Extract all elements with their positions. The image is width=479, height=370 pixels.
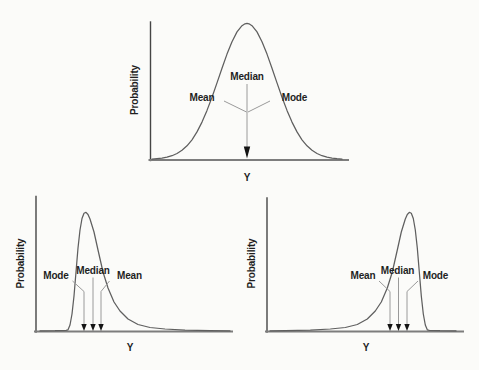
center-arrow bbox=[244, 147, 250, 159]
median-label: Median bbox=[381, 265, 415, 276]
y-axis-label: Probability bbox=[129, 64, 140, 115]
mean-leader-line bbox=[224, 101, 247, 112]
mean-label: Mean bbox=[117, 270, 142, 281]
mode-label: Mode bbox=[282, 92, 308, 103]
y-axis-label: Probability bbox=[246, 238, 257, 289]
distributions-figure: Probability Median Mean Mode Y Probabili… bbox=[0, 0, 479, 370]
median-arrow bbox=[396, 324, 401, 331]
mode-label: Mode bbox=[43, 270, 69, 281]
median-label: Median bbox=[76, 265, 110, 276]
mean-arrow bbox=[98, 324, 103, 331]
mode-leader-line bbox=[248, 101, 270, 112]
mode-arrow bbox=[81, 324, 86, 331]
x-axis-label: Y bbox=[127, 342, 134, 353]
panel-symmetric: Probability Median Mean Mode Y bbox=[129, 22, 348, 183]
x-axis-label: Y bbox=[244, 172, 251, 183]
panel-left-skewed: Probability Mean Median Mode Y bbox=[246, 198, 463, 353]
median-label: Median bbox=[230, 71, 264, 82]
panel-right-skewed: Probability Mode Median Mean Y bbox=[15, 197, 232, 353]
mode-leader-line bbox=[407, 281, 418, 324]
x-axis-label: Y bbox=[363, 342, 370, 353]
mean-arrow bbox=[387, 324, 392, 331]
median-arrow bbox=[90, 324, 95, 331]
mean-label: Mean bbox=[351, 270, 376, 281]
mode-label: Mode bbox=[423, 270, 449, 281]
figure-canvas: Probability Median Mean Mode Y Probabili… bbox=[0, 0, 479, 370]
y-axis-label: Probability bbox=[15, 238, 26, 289]
mean-label: Mean bbox=[190, 92, 215, 103]
mode-arrow bbox=[404, 324, 409, 331]
